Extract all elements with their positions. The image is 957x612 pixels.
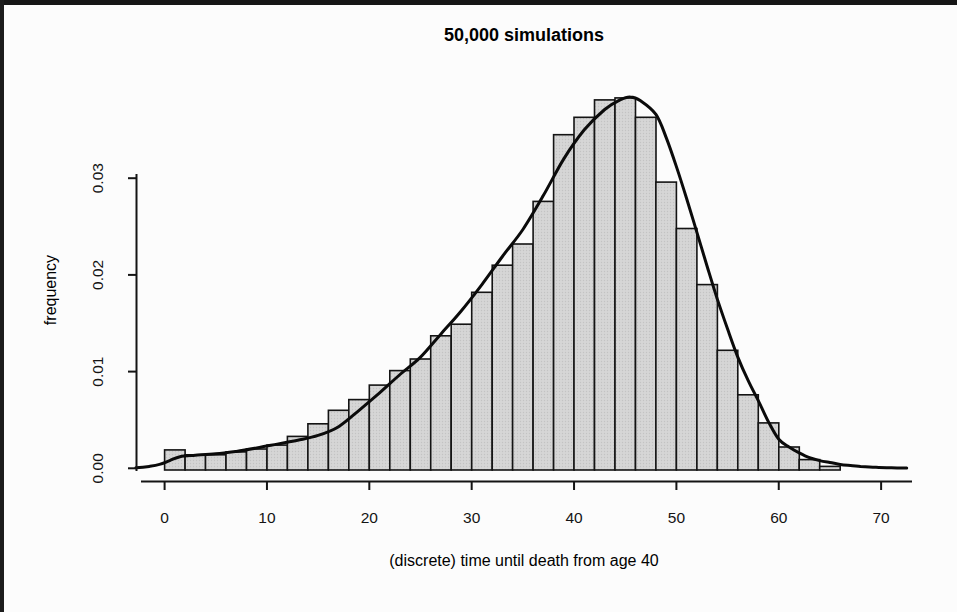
histogram-bar: [492, 265, 513, 470]
histogram-bar: [513, 244, 534, 470]
scanned-plot-page: 50,000 simulations 010203040506070 (disc…: [0, 0, 957, 612]
histogram-bar: [717, 350, 738, 470]
histogram-bar: [431, 336, 452, 470]
histogram-bar: [410, 359, 431, 470]
histogram-bar: [451, 324, 472, 470]
y-axis-label: frequency: [42, 255, 59, 325]
histogram-bar: [697, 285, 718, 470]
y-axis: 0.000.010.020.03 frequency: [42, 163, 137, 483]
histogram-bar: [738, 395, 759, 470]
x-tick-label: 20: [361, 509, 379, 526]
x-axis: 010203040506070 (discrete) time until de…: [141, 482, 912, 570]
x-tick-label: 30: [463, 509, 481, 526]
histogram-bar: [390, 371, 411, 470]
histogram-bar: [656, 182, 677, 470]
histogram-chart: 50,000 simulations 010203040506070 (disc…: [0, 0, 957, 612]
histogram-bar: [615, 98, 636, 470]
histogram-bar: [533, 201, 554, 470]
x-tick-label: 70: [872, 509, 890, 526]
x-tick-label: 10: [258, 509, 276, 526]
histogram-bars: [165, 98, 841, 470]
x-tick-label: 0: [160, 509, 169, 526]
histogram-bar: [595, 100, 616, 470]
x-tick-label: 50: [668, 509, 686, 526]
histogram-bar: [472, 292, 493, 470]
histogram-bar: [636, 117, 657, 470]
histogram-bar: [247, 449, 268, 470]
y-tick-label: 0.01: [89, 357, 106, 387]
histogram-bar: [267, 445, 288, 470]
x-tick-label: 40: [565, 509, 583, 526]
histogram-bar: [820, 466, 841, 470]
x-tick-label: 60: [770, 509, 788, 526]
y-tick-label: 0.03: [89, 163, 106, 193]
histogram-bar: [574, 117, 595, 470]
histogram-bar: [206, 455, 227, 470]
histogram-bar: [758, 423, 779, 470]
histogram-bar: [554, 135, 575, 470]
chart-title: 50,000 simulations: [444, 25, 604, 45]
histogram-bar: [308, 424, 329, 470]
histogram-bar: [226, 452, 247, 470]
histogram-bar: [328, 410, 349, 470]
x-axis-label: (discrete) time until death from age 40: [389, 552, 659, 569]
histogram-bar: [676, 229, 697, 471]
y-tick-label: 0.02: [89, 260, 106, 290]
y-tick-label: 0.00: [89, 453, 106, 484]
